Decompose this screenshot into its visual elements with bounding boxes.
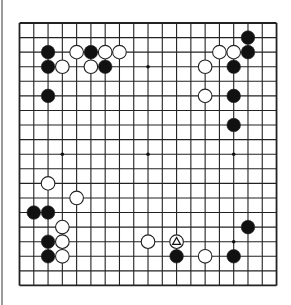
white-stone[interactable] <box>170 235 184 249</box>
star-point <box>146 65 150 69</box>
star-point <box>232 152 236 156</box>
white-stone-disc <box>98 45 112 59</box>
white-stone[interactable] <box>227 45 241 59</box>
white-stone-disc <box>213 45 227 59</box>
white-stone-disc <box>70 45 84 59</box>
black-stone-disc <box>227 249 241 263</box>
star-point <box>232 240 236 244</box>
white-stone-disc <box>56 235 70 249</box>
white-stone[interactable] <box>198 60 212 74</box>
white-stone-disc <box>141 235 155 249</box>
black-stone-disc <box>241 45 255 59</box>
white-stone-disc <box>41 177 55 191</box>
white-stone[interactable] <box>56 220 70 234</box>
white-stone-disc <box>198 60 212 74</box>
white-stone[interactable] <box>70 45 84 59</box>
black-stone[interactable] <box>41 89 55 103</box>
white-stone-disc <box>56 249 70 263</box>
go-board[interactable] <box>0 0 291 305</box>
black-stone[interactable] <box>241 31 255 45</box>
black-stone-disc <box>227 118 241 132</box>
black-stone[interactable] <box>41 206 55 220</box>
black-stone[interactable] <box>170 249 184 263</box>
black-stone-disc <box>41 89 55 103</box>
white-stone-disc <box>198 249 212 263</box>
black-stone[interactable] <box>241 220 255 234</box>
white-stone[interactable] <box>84 60 98 74</box>
white-stone[interactable] <box>141 235 155 249</box>
white-stone-disc <box>227 45 241 59</box>
stones-layer <box>27 31 255 263</box>
white-stone-disc <box>56 220 70 234</box>
black-stone-disc <box>41 45 55 59</box>
black-stone-disc <box>41 60 55 74</box>
black-stone[interactable] <box>227 249 241 263</box>
white-stone-disc <box>70 191 84 205</box>
black-stone-disc <box>241 220 255 234</box>
black-stone-disc <box>84 45 98 59</box>
white-stone[interactable] <box>98 45 112 59</box>
white-stone-disc <box>84 60 98 74</box>
black-stone[interactable] <box>84 45 98 59</box>
star-point <box>61 152 65 156</box>
black-stone-disc <box>41 235 55 249</box>
black-stone[interactable] <box>27 206 41 220</box>
white-stone[interactable] <box>113 45 127 59</box>
white-stone[interactable] <box>56 235 70 249</box>
white-stone[interactable] <box>213 45 227 59</box>
black-stone[interactable] <box>41 249 55 263</box>
black-stone-disc <box>41 249 55 263</box>
black-stone[interactable] <box>227 89 241 103</box>
black-stone[interactable] <box>227 118 241 132</box>
black-stone[interactable] <box>41 235 55 249</box>
black-stone-disc <box>241 31 255 45</box>
white-stone[interactable] <box>70 191 84 205</box>
black-stone[interactable] <box>227 60 241 74</box>
white-stone-disc <box>56 60 70 74</box>
black-stone-disc <box>98 60 112 74</box>
black-stone-disc <box>41 206 55 220</box>
black-stone[interactable] <box>98 60 112 74</box>
white-stone[interactable] <box>56 60 70 74</box>
white-stone[interactable] <box>56 249 70 263</box>
black-stone[interactable] <box>241 45 255 59</box>
white-stone-disc <box>113 45 127 59</box>
black-stone[interactable] <box>41 60 55 74</box>
black-stone-disc <box>227 60 241 74</box>
black-stone-disc <box>170 249 184 263</box>
star-point <box>146 152 150 156</box>
white-stone[interactable] <box>198 89 212 103</box>
white-stone[interactable] <box>41 177 55 191</box>
white-stone-disc <box>198 89 212 103</box>
black-stone[interactable] <box>41 45 55 59</box>
white-stone[interactable] <box>198 249 212 263</box>
black-stone-disc <box>27 206 41 220</box>
black-stone-disc <box>227 89 241 103</box>
